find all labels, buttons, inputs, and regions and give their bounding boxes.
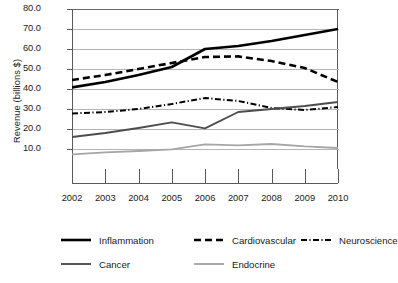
solid-line-swatch — [193, 258, 225, 270]
x-axis-tick-mark — [139, 169, 140, 183]
series-line-endocrine — [72, 144, 338, 154]
x-axis-tick-label: 2010 — [318, 193, 358, 203]
x-axis-tick-mark — [205, 169, 206, 183]
y-axis-tick-label: 50.0 — [1, 64, 41, 73]
y-axis-tick-label: 30.0 — [1, 104, 41, 113]
dash-dot-line-swatch — [300, 234, 332, 246]
legend-label: Inflammation — [99, 235, 154, 246]
legend-label: Neuroscience — [339, 235, 398, 246]
y-axis-tick-label: 70.0 — [1, 24, 41, 33]
x-axis-tick-mark — [172, 169, 173, 183]
legend-row-secondary: CancerEndocrine — [0, 252, 372, 276]
legend-item-cancer[interactable]: Cancer — [60, 252, 130, 276]
legend-item-neuroscience[interactable]: Neuroscience — [300, 228, 398, 252]
chart-legend: InflammationCardiovascularNeuroscience C… — [0, 228, 372, 276]
y-axis-tick-label: 80.0 — [1, 4, 41, 13]
legend-item-inflammation[interactable]: Inflammation — [60, 228, 154, 252]
x-axis-tick-mark — [338, 169, 339, 183]
solid-line-swatch — [60, 258, 92, 270]
y-axis-tick-label: 10.0 — [1, 144, 41, 153]
legend-item-cardiovascular[interactable]: Cardiovascular — [193, 228, 296, 252]
x-axis-line — [72, 183, 338, 184]
y-axis-tick-label: 20.0 — [1, 124, 41, 133]
y-axis-tick-label: 40.0 — [1, 84, 41, 93]
series-line-cancer — [72, 102, 338, 137]
legend-label: Cardiovascular — [232, 235, 296, 246]
legend-label: Endocrine — [232, 259, 275, 270]
x-axis-tick-mark — [272, 169, 273, 183]
y-axis-tick-label: 60.0 — [1, 44, 41, 53]
legend-label: Cancer — [99, 259, 130, 270]
series-line-cardiovascular — [72, 56, 338, 82]
x-axis-tick-mark — [72, 169, 73, 183]
x-axis-tick-mark — [305, 169, 306, 183]
legend-row-primary: InflammationCardiovascularNeuroscience — [0, 228, 372, 252]
solid-line-swatch — [60, 234, 92, 246]
x-axis-tick-mark — [105, 169, 106, 183]
series-lines — [72, 9, 338, 169]
dashed-line-swatch — [193, 234, 225, 246]
x-axis-tick-mark — [238, 169, 239, 183]
legend-item-endocrine[interactable]: Endocrine — [193, 252, 275, 276]
